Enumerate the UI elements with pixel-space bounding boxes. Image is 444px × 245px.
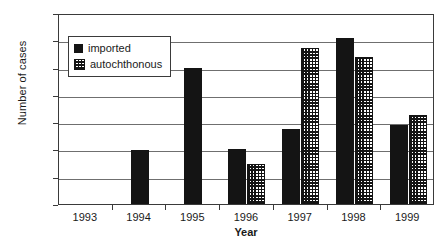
x-axis-tick-label: 1995 [162,211,222,223]
chart-legend: imported autochthonous [68,36,171,77]
bar-chart: Number of cases 0100200300400500600700 1… [0,0,444,245]
bar-autochthonous-1999 [409,115,427,204]
bar-group [274,15,328,204]
legend-item-autochthonous: autochthonous [74,56,162,72]
x-axis-tick-label: 1998 [323,211,383,223]
bar-group [220,15,274,204]
bar-imported-1996 [228,149,246,204]
bar-group [328,15,382,204]
x-axis-ticks: 1993199419951996199719981999 [58,205,434,227]
y-axis-tick-mark [53,14,58,15]
x-axis-tick-label: 1994 [109,211,169,223]
x-axis-tick-label: 1999 [377,211,437,223]
x-axis-tick-mark [380,205,381,210]
x-axis-tick-mark [327,205,328,210]
y-axis-title: Number of cases [16,13,28,153]
y-axis-tick-mark [53,150,58,151]
x-axis-title: Year [58,226,434,238]
y-axis-tick-mark [53,41,58,42]
bar-autochthonous-1997 [301,48,319,204]
legend-swatch-autochthonous-icon [74,59,85,70]
bar-imported-1999 [390,125,408,204]
y-axis-tick-mark [53,123,58,124]
y-axis-tick-mark [53,69,58,70]
x-axis-tick-label: 1996 [216,211,276,223]
x-axis-tick-mark [165,205,166,210]
x-axis-tick-label: 1993 [55,211,115,223]
bar-group [166,15,220,204]
legend-item-imported: imported [74,40,162,56]
bar-autochthonous-1996 [247,164,265,204]
legend-label-imported: imported [88,42,131,54]
legend-label-autochthonous: autochthonous [90,58,162,70]
x-axis-tick-mark [219,205,220,210]
x-axis-tick-label: 1997 [270,211,330,223]
y-axis-tick-mark [53,96,58,97]
y-axis-tick-mark [53,178,58,179]
bar-imported-1995 [184,68,202,204]
legend-swatch-imported-icon [74,44,83,53]
bar-imported-1998 [336,38,354,204]
x-axis-tick-mark [112,205,113,210]
bar-autochthonous-1998 [355,57,373,204]
x-axis-tick-mark [273,205,274,210]
bar-imported-1997 [282,129,300,204]
bar-imported-1994 [131,150,149,204]
bar-group [381,15,435,204]
